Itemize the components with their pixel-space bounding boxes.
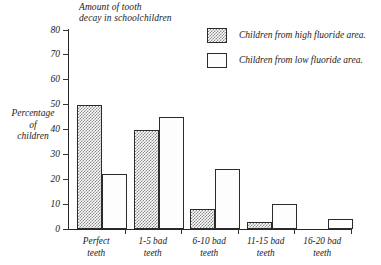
bar-high-fluoride-1: [134, 130, 159, 230]
bar-high-fluoride-2: [190, 209, 215, 229]
x-tick-1: [125, 229, 126, 234]
category-label-3: 11-15 badteeth: [238, 236, 295, 259]
chart-title-line-2: decay in schoolchildren: [79, 13, 229, 24]
y-tick-label-60: 60: [38, 74, 60, 84]
category-label-line: teeth: [68, 248, 125, 260]
category-label-line: teeth: [181, 248, 238, 260]
category-label-line: 6-10 bad: [181, 236, 238, 248]
legend-swatch-high-fluoride-icon: [207, 28, 227, 43]
legend-swatch-low-fluoride-icon: [207, 53, 227, 68]
category-label-1: 1-5 badteeth: [125, 236, 182, 259]
y-tick-label-80: 80: [38, 25, 60, 35]
bar-chart: Amount of tooth decay in schoolchildren …: [0, 0, 381, 265]
bar-high-fluoride-0: [77, 105, 102, 229]
y-tick-80: [63, 30, 69, 31]
y-axis-label-line-1: Percentage: [2, 108, 64, 120]
category-label-line: teeth: [238, 248, 295, 260]
y-tick-50: [63, 104, 69, 105]
legend-label-high-fluoride: Children from high fluoride area.: [239, 29, 366, 42]
y-tick-label-10: 10: [38, 199, 60, 209]
category-label-line: 11-15 bad: [238, 236, 295, 248]
bar-low-fluoride-3: [272, 204, 297, 229]
category-label-line: teeth: [294, 248, 351, 260]
legend-label-low-fluoride: Children from low fluoride area.: [239, 54, 363, 67]
y-tick-60: [63, 79, 69, 80]
bar-low-fluoride-0: [102, 174, 127, 229]
category-label-line: Perfect: [68, 236, 125, 248]
bar-low-fluoride-1: [159, 117, 184, 229]
y-tick-0: [63, 229, 69, 230]
y-tick-label-0: 0: [38, 224, 60, 234]
bar-low-fluoride-4: [328, 219, 353, 229]
category-label-4: 16-20 badteeth: [294, 236, 351, 259]
bar-low-fluoride-2: [215, 169, 240, 229]
x-tick-3: [238, 229, 239, 234]
y-tick-30: [63, 154, 69, 155]
y-tick-70: [63, 54, 69, 55]
category-label-line: teeth: [125, 248, 182, 260]
x-tick-4: [294, 229, 295, 234]
chart-title: Amount of tooth decay in schoolchildren: [79, 2, 229, 24]
y-tick-label-40: 40: [38, 124, 60, 134]
bar-high-fluoride-3: [247, 222, 272, 229]
chart-title-line-1: Amount of tooth: [79, 2, 229, 13]
y-tick-label-30: 30: [38, 149, 60, 159]
category-label-2: 6-10 badteeth: [181, 236, 238, 259]
y-tick-10: [63, 204, 69, 205]
y-tick-label-20: 20: [38, 174, 60, 184]
x-tick-2: [181, 229, 182, 234]
category-label-line: 1-5 bad: [125, 236, 182, 248]
y-tick-label-50: 50: [38, 99, 60, 109]
y-tick-label-70: 70: [38, 49, 60, 59]
category-label-line: 16-20 bad: [294, 236, 351, 248]
y-tick-20: [63, 179, 69, 180]
y-tick-40: [63, 129, 69, 130]
x-tick-5: [351, 229, 352, 234]
category-label-0: Perfectteeth: [68, 236, 125, 259]
